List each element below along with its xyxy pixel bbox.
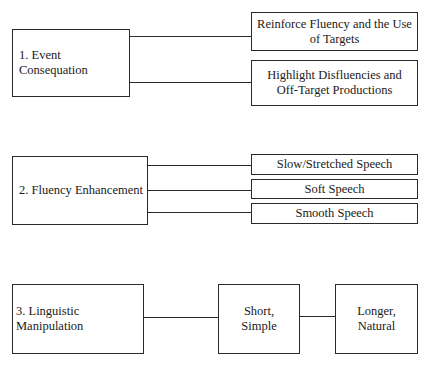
- linguistic-manipulation-box: 3. Linguistic Manipulation: [12, 284, 144, 354]
- smooth-speech-label: Smooth Speech: [295, 206, 373, 221]
- connector-line: [300, 316, 335, 317]
- reinforce-fluency-label: Reinforce Fluency and the Use of Targets: [256, 17, 413, 47]
- highlight-disfluencies-label: Highlight Disfluencies and Off-Target Pr…: [256, 68, 413, 98]
- connector-line: [130, 82, 251, 83]
- longer-natural-label: Longer, Natural: [349, 304, 405, 334]
- slow-stretched-speech-box: Slow/Stretched Speech: [251, 154, 418, 175]
- soft-speech-box: Soft Speech: [251, 179, 418, 199]
- longer-natural-box: Longer, Natural: [335, 284, 418, 354]
- connector-line: [148, 165, 251, 166]
- slow-stretched-speech-label: Slow/Stretched Speech: [277, 157, 393, 172]
- event-consequation-label: 1. Event Consequation: [19, 48, 129, 78]
- highlight-disfluencies-box: Highlight Disfluencies and Off-Target Pr…: [251, 60, 418, 106]
- connector-line: [148, 190, 251, 191]
- connector-line: [144, 317, 218, 318]
- soft-speech-label: Soft Speech: [304, 182, 364, 197]
- linguistic-manipulation-label: 3. Linguistic Manipulation: [16, 304, 143, 334]
- smooth-speech-box: Smooth Speech: [251, 203, 418, 224]
- fluency-enhancement-label: 2. Fluency Enhancement: [19, 183, 143, 198]
- connector-line: [148, 212, 251, 213]
- short-simple-label: Short, Simple: [234, 304, 284, 334]
- event-consequation-box: 1. Event Consequation: [12, 29, 130, 97]
- connector-line: [130, 36, 251, 37]
- fluency-enhancement-box: 2. Fluency Enhancement: [12, 156, 148, 225]
- short-simple-box: Short, Simple: [218, 284, 300, 354]
- reinforce-fluency-box: Reinforce Fluency and the Use of Targets: [251, 12, 418, 51]
